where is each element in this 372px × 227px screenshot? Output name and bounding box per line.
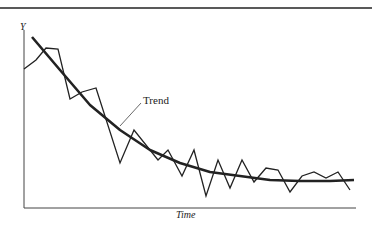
trend-curve [32, 37, 354, 181]
y-axis-label: Y [20, 21, 26, 32]
x-axis-label: Time [176, 209, 195, 220]
trend-leader-line [120, 103, 141, 126]
observed-series-line [24, 48, 350, 196]
trend-chart [0, 0, 372, 227]
trend-annotation: Trend [143, 94, 169, 106]
